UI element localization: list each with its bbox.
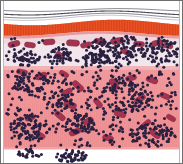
tissue-illustration-figure: Tissue cross-section illustration Histol… (0, 0, 183, 164)
tissue-cross-section-canvas (0, 0, 183, 164)
